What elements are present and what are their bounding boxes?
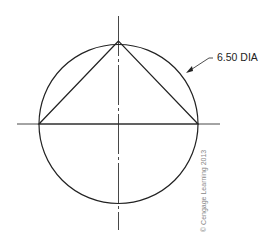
copyright-text: © Cengage Learning 2013 [200, 150, 207, 232]
dimension-label: 6.50 DIA [217, 51, 258, 63]
drawing-canvas [0, 0, 268, 243]
arrowhead-icon [186, 66, 193, 73]
